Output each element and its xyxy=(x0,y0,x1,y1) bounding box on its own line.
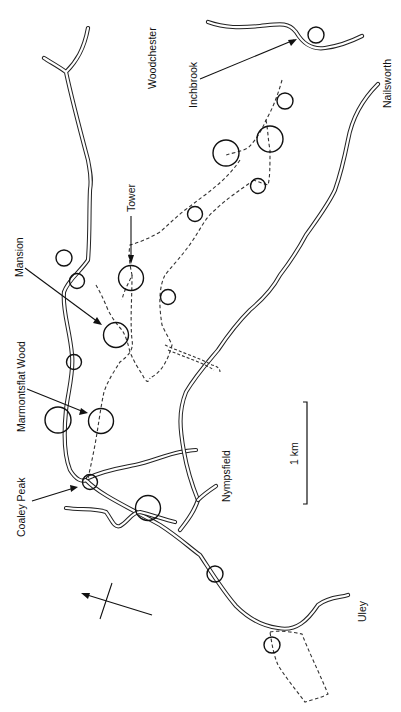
scale-bar-line xyxy=(303,402,307,504)
roads xyxy=(44,22,378,629)
footpath-upper xyxy=(122,160,240,300)
label-inchbrook: Inchbrook xyxy=(187,61,199,108)
label-uley: Uley xyxy=(356,600,368,622)
arrowhead-icon xyxy=(128,255,134,264)
sites xyxy=(45,27,324,653)
label-nympsfield: Nympsfield xyxy=(220,450,232,502)
site-nw-small[interactable] xyxy=(56,250,72,266)
site-upper-small[interactable] xyxy=(188,207,203,222)
label-tower: Tower xyxy=(125,183,137,212)
footpath-middle xyxy=(150,180,254,378)
scale-bar: 1 km xyxy=(288,402,307,504)
footpath-north-branch xyxy=(254,120,270,185)
arrowhead-icon xyxy=(93,317,102,325)
road-coaley-nympsfield xyxy=(88,450,196,478)
north-arrow-icon xyxy=(81,583,152,619)
site-ne-small[interactable] xyxy=(277,93,293,109)
label-mansion: Mansion xyxy=(13,237,25,277)
scale-bar-label: 1 km xyxy=(288,442,300,465)
site-ne-large[interactable] xyxy=(257,126,283,152)
label-coaley-peak: Coaley Peak xyxy=(15,477,27,537)
map-canvas: Woodchester Inchbrook Nailsworth Tower M… xyxy=(0,0,401,712)
arrowhead-icon xyxy=(288,39,297,46)
site-east-small[interactable] xyxy=(251,179,266,194)
marmontsflat-leader xyxy=(27,389,84,412)
label-nailsworth: Nailsworth xyxy=(381,59,393,108)
road-east-long xyxy=(180,84,378,530)
inchbrook-leader xyxy=(200,40,294,79)
arrowhead-icon xyxy=(79,408,88,415)
site-inchbrook[interactable] xyxy=(308,27,324,43)
site-mansion[interactable] xyxy=(104,323,129,348)
labels: Woodchester Inchbrook Nailsworth Tower M… xyxy=(13,27,393,622)
footpaths xyxy=(88,80,328,702)
site-marmontsflat[interactable] xyxy=(89,409,114,434)
road-nympsfield-spur xyxy=(198,486,216,500)
footpath-tower-down xyxy=(88,275,132,478)
road-main-west xyxy=(44,28,348,629)
site-middle-small[interactable] xyxy=(161,290,176,305)
coaley-peak-leader xyxy=(32,488,74,501)
label-marmontsflat-wood: Marmontsflat Wood xyxy=(15,341,27,432)
mansion-leader xyxy=(25,268,98,322)
label-woodchester: Woodchester xyxy=(146,27,158,89)
arrowhead-icon xyxy=(70,485,78,492)
road-inchbrook xyxy=(208,22,362,48)
